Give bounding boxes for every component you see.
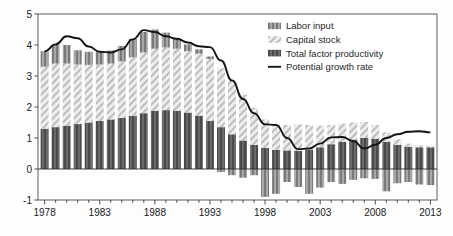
bar-segment <box>206 121 214 169</box>
bar-segment <box>272 150 280 169</box>
y-axis-ticks: -1012345 <box>23 9 38 206</box>
legend-label: Total factor productivity <box>286 48 383 59</box>
x-tick-label: 1998 <box>254 207 277 218</box>
bar-segment <box>371 125 379 139</box>
bar-segment <box>184 51 192 112</box>
bar-segment <box>74 50 82 64</box>
y-tick-label: 0 <box>26 164 32 175</box>
y-tick-label: 2 <box>26 102 32 113</box>
bar-segment <box>41 67 49 129</box>
x-axis-ticks: 19781983198819931998200320082013 <box>33 200 441 218</box>
bar-segment <box>338 169 346 184</box>
bar-segment <box>74 124 82 169</box>
bar-segment <box>261 169 269 197</box>
potential-growth-rate-chart: -1012345 1978198319881993199820032008201… <box>0 0 453 236</box>
bar-segment <box>63 126 71 169</box>
bar-segment <box>41 51 49 66</box>
bar-segment <box>404 147 412 169</box>
bar-segment <box>426 169 434 185</box>
bar-segment <box>118 61 126 117</box>
bar-segment <box>96 121 104 169</box>
bar-segment <box>305 150 313 169</box>
bar-segment <box>129 116 137 169</box>
bar-segment <box>195 54 203 116</box>
y-tick-label: 3 <box>26 71 32 82</box>
bar-segment <box>217 169 225 172</box>
bar-segment <box>74 65 82 125</box>
x-tick-label: 1983 <box>89 207 112 218</box>
bar-segment <box>184 44 192 51</box>
bar-segment <box>360 122 368 138</box>
bar-segment <box>316 147 324 169</box>
bar-segment <box>382 169 390 191</box>
bar-segment <box>415 169 423 185</box>
bar-segment <box>393 139 401 145</box>
bar-segment <box>360 138 368 169</box>
bar-segment <box>228 81 236 134</box>
bar-segment <box>118 118 126 169</box>
bar-segment <box>195 116 203 169</box>
bar-segment <box>316 169 324 188</box>
legend-label: Capital stock <box>286 34 341 45</box>
bar-segment <box>52 64 60 128</box>
bar-segment <box>426 147 434 169</box>
bar-segment <box>217 68 225 127</box>
bar-segment <box>151 111 159 169</box>
bar-segment <box>426 146 434 147</box>
bar-segment <box>305 169 313 194</box>
bar-segment <box>404 144 412 147</box>
bar-segment <box>195 49 203 53</box>
bar-segment <box>338 124 346 142</box>
bar-segment <box>250 169 258 175</box>
bar-segment <box>327 125 335 144</box>
legend-item: Total factor productivity <box>268 48 383 59</box>
bar-segment <box>162 110 170 169</box>
bar-segment <box>261 148 269 169</box>
y-tick-label: -1 <box>23 195 32 206</box>
bar-segment <box>228 134 236 169</box>
legend-label: Labor input <box>286 20 334 31</box>
bar-segment <box>96 65 104 121</box>
bar-segment <box>239 140 247 169</box>
bar-segment <box>206 59 214 121</box>
y-tick-label: 5 <box>26 9 32 20</box>
bar-segment <box>41 129 49 169</box>
bar-segment <box>338 142 346 169</box>
bar-segment <box>382 142 390 169</box>
bar-segment <box>327 169 335 182</box>
y-tick-label: 1 <box>26 133 32 144</box>
bar-segment <box>107 119 115 169</box>
bar-segment <box>272 125 280 150</box>
bar-segment <box>184 113 192 169</box>
bar-segment <box>349 169 357 180</box>
y-tick-label: 4 <box>26 40 32 51</box>
bar-segment <box>140 32 148 52</box>
x-tick-label: 2003 <box>309 207 332 218</box>
bar-segment <box>305 125 313 150</box>
bar-segment <box>173 111 181 169</box>
bar-segment <box>162 47 170 110</box>
bar-segment <box>140 52 148 113</box>
bar-segment <box>85 123 93 170</box>
bar-segment <box>349 123 357 140</box>
legend-label: Potential growth rate <box>286 61 373 72</box>
bar-segment <box>294 169 302 187</box>
bar-segment <box>151 49 159 111</box>
bar-segment <box>404 169 412 182</box>
bar-segment <box>393 169 401 183</box>
x-tick-label: 1988 <box>144 207 167 218</box>
bar-segment <box>294 151 302 169</box>
bar-segment <box>173 49 181 111</box>
bar-segment <box>217 127 225 169</box>
bar-segment <box>360 169 368 178</box>
bar-segment <box>283 150 291 169</box>
x-tick-label: 1993 <box>199 207 222 218</box>
bar-segment <box>52 127 60 169</box>
bar-segment <box>393 145 401 169</box>
bar-segment <box>52 44 60 63</box>
x-tick-label: 2013 <box>419 207 442 218</box>
bar-segment <box>63 45 71 64</box>
bar-segment <box>206 56 214 58</box>
bar-segment <box>272 169 280 194</box>
bar-segment <box>85 65 93 123</box>
